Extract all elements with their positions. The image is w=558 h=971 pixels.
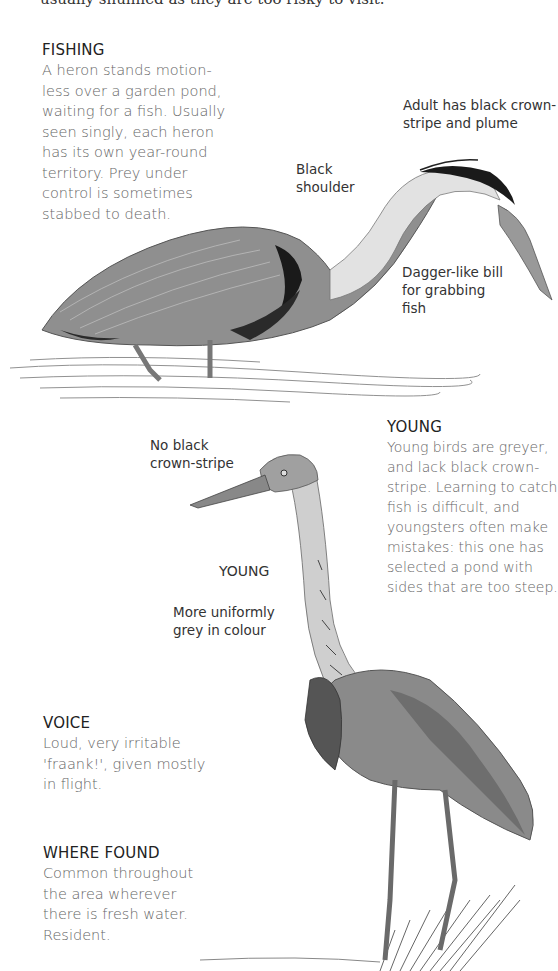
text-line: seen singly, each heron bbox=[42, 122, 242, 143]
young-tag-label: YOUNG bbox=[219, 562, 269, 580]
text-line: sides that are too steep. bbox=[387, 577, 558, 597]
text-line: stripe. Learning to catch bbox=[387, 477, 558, 497]
voice-section: VOICE Loud, very irritable 'fraank!', gi… bbox=[43, 713, 243, 795]
text-line: less over a garden pond, bbox=[42, 81, 242, 102]
text-line: there is fresh water. bbox=[43, 904, 243, 925]
fishing-section: FISHING A heron stands motion- less over… bbox=[42, 40, 242, 224]
label-line: Dagger-like bill bbox=[402, 263, 503, 281]
fishing-heading: FISHING bbox=[42, 40, 242, 60]
young-neck bbox=[270, 460, 360, 700]
text-line: fish is difficult, and bbox=[387, 497, 558, 517]
label-line: No black bbox=[150, 436, 234, 454]
text-line: has its own year-round bbox=[42, 142, 242, 163]
text-line: Young birds are greyer, bbox=[387, 437, 558, 457]
voice-heading: VOICE bbox=[43, 713, 243, 733]
label-line: for grabbing bbox=[402, 281, 503, 299]
label-line: More uniformly bbox=[173, 603, 275, 621]
text-line: 'fraank!', given mostly bbox=[43, 754, 243, 775]
dagger-bill-label: Dagger-like bill for grabbing fish bbox=[402, 263, 503, 317]
young-heading: YOUNG bbox=[387, 417, 558, 437]
text-line: A heron stands motion- bbox=[42, 60, 242, 81]
text-line: Resident. bbox=[43, 925, 243, 946]
text-line: and lack black crown- bbox=[387, 457, 558, 477]
crown-stripe-label: Adult has black crown- stripe and plume bbox=[403, 96, 556, 132]
young-bill bbox=[190, 475, 270, 508]
where-found-text: Common throughout the area wherever ther… bbox=[43, 863, 243, 945]
text-line: the area wherever bbox=[43, 884, 243, 905]
label-line: Adult has black crown- bbox=[403, 96, 556, 114]
text-line: mistakes: this one has bbox=[387, 537, 558, 557]
label-line: crown-stripe bbox=[150, 454, 234, 472]
fishing-text: A heron stands motion- less over a garde… bbox=[42, 60, 242, 224]
no-crown-stripe-label: No black crown-stripe bbox=[150, 436, 234, 472]
text-line: youngsters often make bbox=[387, 517, 558, 537]
voice-text: Loud, very irritable 'fraank!', given mo… bbox=[43, 733, 243, 795]
text-line: waiting for a fish. Usually bbox=[42, 101, 242, 122]
label-line: fish bbox=[402, 299, 503, 317]
label-line: shoulder bbox=[296, 178, 355, 196]
text-line: territory. Prey under bbox=[42, 163, 242, 184]
text-line: Loud, very irritable bbox=[43, 733, 243, 754]
text-line: control is sometimes bbox=[42, 183, 242, 204]
label-line: stripe and plume bbox=[403, 114, 556, 132]
young-body bbox=[320, 670, 533, 840]
where-found-section: WHERE FOUND Common throughout the area w… bbox=[43, 843, 243, 945]
text-line: in flight. bbox=[43, 774, 243, 795]
black-shoulder-label: Black shoulder bbox=[296, 160, 355, 196]
text-line: stabbed to death. bbox=[42, 204, 242, 225]
label-line: grey in colour bbox=[173, 621, 275, 639]
young-section: YOUNG Young birds are greyer, and lack b… bbox=[387, 417, 558, 597]
text-line: selected a pond with bbox=[387, 557, 558, 577]
text-line: Common throughout bbox=[43, 863, 243, 884]
where-found-heading: WHERE FOUND bbox=[43, 843, 243, 863]
young-text: Young birds are greyer, and lack black c… bbox=[387, 437, 558, 597]
label-line: Black bbox=[296, 160, 355, 178]
uniform-grey-label: More uniformly grey in colour bbox=[173, 603, 275, 639]
young-eye bbox=[281, 470, 287, 476]
